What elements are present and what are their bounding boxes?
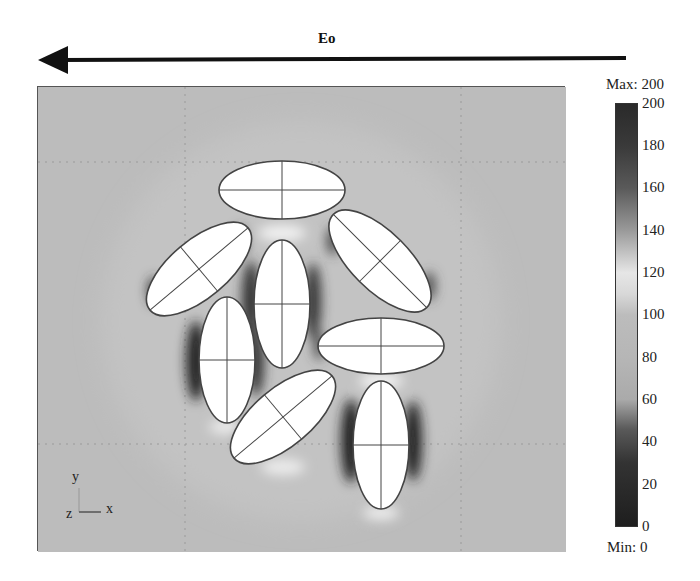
particle-map — [38, 87, 566, 552]
colorbar-tick: 160 — [642, 179, 665, 196]
x-axis-label: x — [106, 501, 113, 517]
colorbar-tick: 100 — [642, 306, 665, 323]
ellipse-particle — [353, 381, 409, 509]
colorbar-tick: 200 — [642, 95, 665, 112]
y-axis-label: y — [72, 469, 79, 485]
colorbar-tick: 120 — [642, 264, 665, 281]
colorbar — [615, 103, 638, 527]
ellipse-particle — [254, 240, 310, 368]
colorbar-tick: 40 — [642, 433, 657, 450]
z-axis-label: z — [66, 506, 72, 522]
ellipse-particle — [219, 161, 345, 219]
field-arrow-icon — [0, 0, 700, 100]
colorbar-tick: 60 — [642, 391, 657, 408]
colorbar-tick: 0 — [642, 518, 650, 535]
colorbar-min-label: Min: 0 — [607, 539, 647, 556]
colorbar-tick: 20 — [642, 476, 657, 493]
colorbar-tick: 80 — [642, 349, 657, 366]
field-plot — [37, 86, 565, 551]
colorbar-max-label: Max: 200 — [606, 76, 664, 93]
colorbar-tick: 180 — [642, 137, 665, 154]
colorbar-tick: 140 — [642, 222, 665, 239]
ellipse-particle — [199, 297, 255, 423]
ellipse-particle — [318, 318, 444, 374]
